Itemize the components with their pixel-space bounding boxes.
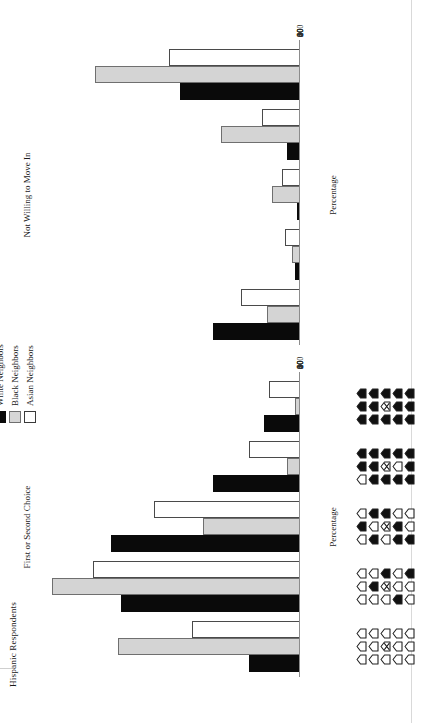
house-filled-icon [404,475,415,486]
bar-group [44,45,300,105]
house-ego-icon [380,582,391,593]
bar [213,476,300,493]
figure-title: Hispanic Respondents [8,602,18,687]
house-open-icon [356,582,367,593]
house-open-icon [368,595,379,606]
pictogram-row [404,509,415,546]
pictogram-row [392,569,403,606]
plot-area-right: 020406080100 [44,45,300,345]
legend-label: Asian Neighbors [25,345,35,406]
pictogram-card [352,497,418,557]
bar [249,442,300,459]
house-open-icon [356,655,367,666]
pictogram-card [352,617,418,677]
house-filled-icon [392,449,403,460]
pictogram-row [368,629,379,666]
bar [282,170,300,187]
pictogram-row [380,629,391,666]
house-open-icon [392,509,403,520]
house-open-icon [392,462,403,473]
bar [269,382,300,399]
house-open-icon [404,509,415,520]
pictogram-row [356,509,367,546]
house-filled-icon [356,462,367,473]
pictogram-card [352,557,418,617]
house-filled-icon [356,415,367,426]
pictogram-row [392,509,403,546]
house-filled-icon [356,402,367,413]
figure-page: Hispanic Respondents First or Second Cho… [0,0,429,723]
pictogram-row [380,449,391,486]
house-filled-icon [368,535,379,546]
bar-group [44,105,300,165]
house-open-icon [356,509,367,520]
house-filled-icon [368,402,379,413]
house-open-icon [356,595,367,606]
bar-group [44,557,300,617]
pictogram-row [368,509,379,546]
pictogram-row [380,509,391,546]
bar [262,110,300,127]
bar [285,230,300,247]
bar-group [44,377,300,437]
house-open-icon [404,522,415,533]
bar [121,596,300,613]
house-filled-icon [392,595,403,606]
pictogram-row [368,389,379,426]
bar [203,519,300,536]
bar [52,579,300,596]
house-filled-icon [356,522,367,533]
house-open-icon [356,642,367,653]
house-filled-icon [392,535,403,546]
bar [272,187,300,204]
y-tick [299,40,300,45]
house-open-icon [356,629,367,640]
legend: White NeighborsBlack NeighborsAsian Neig… [0,344,36,423]
house-filled-icon [392,475,403,486]
house-open-icon [392,629,403,640]
bar [93,562,300,579]
pictogram-row [356,449,367,486]
bar-groups-right [44,45,300,345]
house-filled-icon [380,389,391,400]
house-filled-icon [404,449,415,460]
house-open-icon [392,569,403,580]
bar [180,84,300,101]
legend-item: White Neighbors [0,344,6,423]
house-filled-icon [356,389,367,400]
house-filled-icon [404,389,415,400]
bar [192,622,300,639]
pictogram-row [392,389,403,426]
panel-title-right: Not Willing to Move In [22,45,32,345]
bar [264,416,300,433]
legend-label: White Neighbors [0,344,5,406]
house-filled-icon [356,449,367,460]
house-ego-icon [380,402,391,413]
house-filled-icon [368,475,379,486]
bar [95,67,300,84]
house-filled-icon [404,402,415,413]
bar [118,639,300,656]
house-open-icon [404,595,415,606]
legend-item: Black Neighbors [9,344,21,423]
pictogram-row [368,569,379,606]
pictogram-row [356,629,367,666]
bar-group [44,437,300,497]
house-open-icon [368,522,379,533]
house-open-icon [404,582,415,593]
house-filled-icon [380,449,391,460]
house-open-icon [356,569,367,580]
x-axis-line-right [299,45,300,345]
house-filled-icon [368,415,379,426]
house-filled-icon [368,389,379,400]
x-axis-line-left [299,377,300,677]
house-filled-icon [380,415,391,426]
y-tick [299,372,300,377]
legend-swatch-icon [9,411,21,423]
pictogram-row [404,449,415,486]
house-filled-icon [368,462,379,473]
house-ego-icon [380,642,391,653]
pictogram-row [380,389,391,426]
house-open-icon [404,629,415,640]
pictogram-row [404,629,415,666]
